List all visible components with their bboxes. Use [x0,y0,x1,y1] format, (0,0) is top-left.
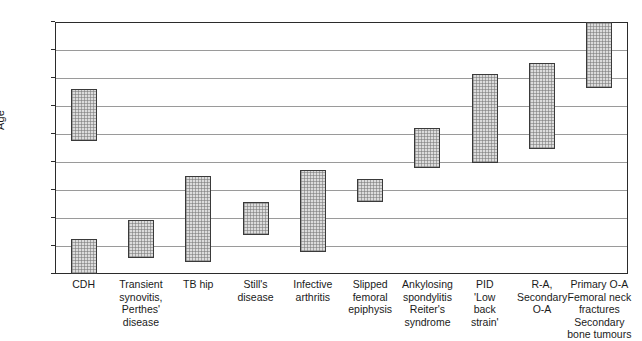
x-axis-label-line: synovitis, [106,291,175,304]
range-bar [529,63,555,150]
x-axis-label-line: Femoral neck [565,291,634,304]
x-axis-label-line: Primary O-A [565,278,634,291]
y-axis-title: Age [0,110,6,130]
range-bar [128,220,154,259]
x-axis-label-line: strain' [450,316,519,329]
x-axis: CDHTransientsynovitis,Perthes'diseaseTB … [55,278,628,336]
x-axis-label-line: Perthes' [106,303,175,316]
gridline-60 [56,50,627,51]
range-bar [71,89,97,141]
x-axis-label-line: fractures [565,303,634,316]
range-bar [243,202,269,234]
range-bar [71,239,97,274]
x-axis-label: Primary O-AFemoral neckfracturesSecondar… [565,278,634,341]
range-bar [472,74,498,163]
x-axis-label-line: bone tumours [565,328,634,341]
gridline-20 [56,162,627,163]
x-axis-label-line: disease [106,316,175,329]
x-axis-label-line: Secondary [565,316,634,329]
range-bar [357,179,383,203]
range-bar [414,128,440,167]
y-axis: 051015203040506070 [0,0,55,336]
range-bar [300,170,326,251]
range-bar [586,22,612,88]
range-bar [185,176,211,262]
gridline-15 [56,190,627,191]
